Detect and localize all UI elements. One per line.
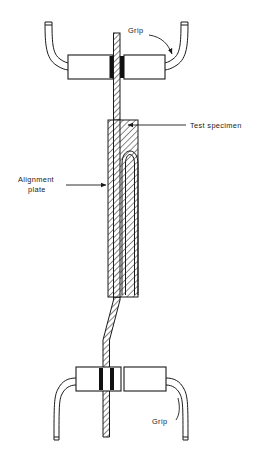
grip-top-clamp-pad-right (120, 56, 124, 78)
tensile-test-fixture-diagram: Grip Test specimen Alignment plate Grip (0, 0, 263, 457)
label-grip-top: Grip (128, 26, 143, 35)
alignment-plate (108, 120, 138, 297)
specimen-through-plate (114, 120, 121, 297)
label-grip-bottom: Grip (152, 417, 167, 426)
grip-top-jaw-left (68, 55, 113, 79)
grip-top-jaw-right (124, 55, 165, 79)
grip-bottom-jaw-left (76, 367, 121, 391)
grip-top-clamp-pad-left (110, 56, 114, 78)
label-test-specimen: Test specimen (190, 121, 242, 130)
label-alignment-plate-line2: plate (28, 185, 46, 194)
grip-bottom-clamp-pad-left (99, 368, 103, 390)
grip-bottom-jaw-right (124, 367, 166, 391)
grip-bottom-clamp-pad-right (110, 368, 114, 390)
label-alignment-plate-line1: Alignment (18, 175, 54, 184)
